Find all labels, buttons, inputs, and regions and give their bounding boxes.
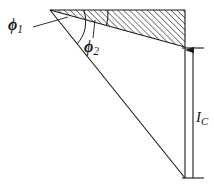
label-phi1: ϕ1 <box>8 17 23 36</box>
leader-line-phi2 <box>93 20 95 38</box>
phi1-subscript: 1 <box>17 23 23 35</box>
figure-container: ϕ1 ϕ2 IC <box>0 0 214 192</box>
label-phi2: ϕ2 <box>84 39 99 58</box>
label-current-ic: IC <box>196 110 208 127</box>
phi2-subscript: 2 <box>93 45 99 57</box>
phi2-symbol: ϕ <box>84 38 93 55</box>
phi1-symbol: ϕ <box>8 16 17 33</box>
diagram-canvas <box>0 0 214 192</box>
ic-subscript: C <box>201 115 208 127</box>
